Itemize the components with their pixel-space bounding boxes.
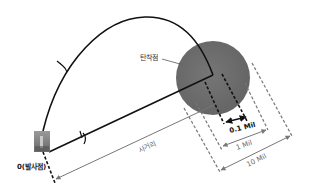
artillery-mil-diagram: 탄착점 0(발사점) 사거리 0.1 Mil 1 Mil 10 Mil [0,0,310,195]
mil10-extension-left [184,108,220,172]
range-label: 사거리 [137,139,157,155]
mil01-dimension-arrow [226,117,246,122]
mil10-extension-right [252,63,292,136]
impact-area-circle [176,41,250,115]
impact-point-label: 탄착점 [140,53,158,62]
range-dimension-arrow [56,105,214,179]
mil01-label: 0.1 Mil [229,121,257,135]
line-of-fire [49,75,213,152]
mil10-label: 10 Mil [245,152,267,168]
launch-point-label: 0(발사점) [17,162,46,171]
impact-label-leader [162,59,180,64]
launch-point-icon [34,131,50,152]
arc-break-mark [57,61,67,72]
